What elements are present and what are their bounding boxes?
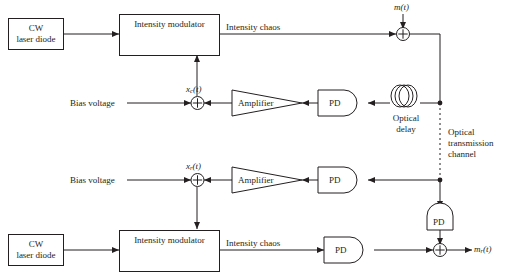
intensity-modulator-top-block: Intensity modulator — [119, 14, 220, 56]
optical-channel-line3: channel — [448, 149, 494, 160]
optical-transmission-channel-label: Optical transmission channel — [448, 127, 494, 160]
intensity-modulator-bottom-label: Intensity modulator — [134, 235, 205, 246]
signal-xr-tail: (t) — [193, 161, 202, 171]
pd-top-label: PD — [329, 98, 341, 109]
optical-channel-line1: Optical — [448, 127, 494, 138]
amplifier-bottom-label: Amplifier — [238, 175, 274, 186]
pd-right-label: PD — [433, 217, 445, 228]
cw-laser-bottom-line2: laser diode — [16, 250, 55, 261]
cw-laser-top-line2: laser diode — [16, 34, 55, 45]
optical-delay-label: Optical delay — [383, 113, 429, 135]
optical-delay-line1: Optical — [383, 113, 429, 124]
signal-xc-tail: (t) — [193, 84, 202, 94]
optical-delay-line2: delay — [383, 124, 429, 135]
intensity-modulator-bottom-block: Intensity modulator — [119, 230, 220, 272]
optical-channel-line2: transmission — [448, 138, 494, 149]
signal-m-t-label: m(t) — [394, 2, 409, 13]
cw-laser-top-line1: CW — [29, 23, 44, 34]
figure-canvas: CW laser diode Intensity modulator CW la… — [0, 0, 506, 278]
pd-bottom-label: PD — [335, 245, 347, 256]
cw-laser-diode-top-block: CW laser diode — [8, 18, 64, 50]
signal-xr-t-label: xr(t) — [186, 161, 201, 173]
amplifier-top-label: Amplifier — [238, 98, 274, 109]
cw-laser-diode-bottom-block: CW laser diode — [8, 234, 64, 266]
pd-mid-label: PD — [329, 175, 341, 186]
bias-voltage-bottom-label: Bias voltage — [70, 175, 115, 186]
cw-laser-bottom-line1: CW — [29, 239, 44, 250]
diagram-wires — [0, 0, 506, 278]
signal-mr-t-label: mr(t) — [474, 244, 492, 256]
signal-mr-tail: (t) — [483, 244, 492, 254]
bias-voltage-top-label: Bias voltage — [70, 98, 115, 109]
intensity-modulator-top-label: Intensity modulator — [134, 19, 205, 30]
intensity-chaos-top-label: Intensity chaos — [226, 22, 280, 33]
intensity-chaos-bottom-label: Intensity chaos — [226, 238, 280, 249]
signal-xc-t-label: xc(t) — [186, 84, 201, 96]
